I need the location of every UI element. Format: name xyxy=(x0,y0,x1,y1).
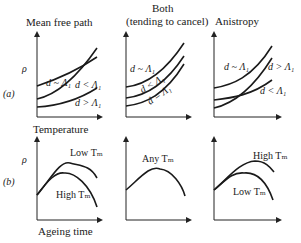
curve-label: Low Tₘ xyxy=(70,148,103,158)
curve-label: d ~ Λ₁ xyxy=(224,62,249,72)
panel-b2-axes xyxy=(126,139,189,220)
column-subtitle-both: (tending to cancel) xyxy=(126,16,208,27)
row-label-a: (a) xyxy=(3,89,15,99)
panel-a3-curves xyxy=(214,46,272,108)
column-title-mean-free-path: Mean free path xyxy=(26,17,93,28)
x-axis-label-b: Ageing time xyxy=(38,226,93,237)
curve-label: d ~ Λ₁ xyxy=(130,64,155,74)
curve-label: d > Λ₁ xyxy=(268,62,294,72)
curve-label: High Tₘ xyxy=(56,190,91,200)
column-title-both: Both xyxy=(152,3,173,14)
column-title-anistropy: Anistropy xyxy=(215,16,259,27)
curve-label: High Tₘ xyxy=(253,151,288,161)
curve-label: d ~ Λ₁ xyxy=(46,78,71,88)
y-axis-label-b: ρ xyxy=(22,155,27,165)
x-axis-label-a: Temperature xyxy=(33,124,88,135)
row-label-b: (b) xyxy=(3,177,15,187)
panel-b2-curves xyxy=(126,168,185,196)
curve-label: Any Tₘ xyxy=(142,154,174,164)
curve-label: Low Tₘ xyxy=(233,187,266,197)
curve-label: d > Λ₁ xyxy=(75,98,101,108)
panel-b1-curves xyxy=(37,163,97,207)
curve-label: d < Λ₁ xyxy=(260,86,286,96)
diagram-graphics xyxy=(0,0,301,243)
y-axis-label-a: ρ xyxy=(22,64,27,74)
curve-label: d < Λ₁ xyxy=(75,80,101,90)
